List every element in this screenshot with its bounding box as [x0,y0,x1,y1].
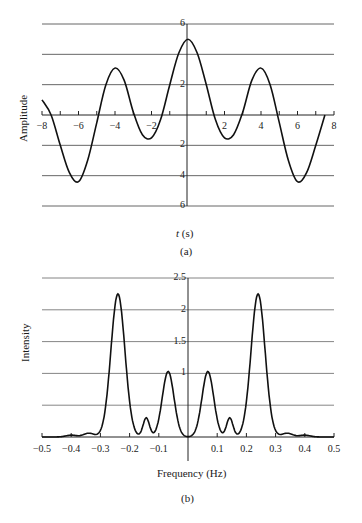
y-tick-a-2: 2 [180,138,185,149]
x-tick-b-2: −0.3 [91,443,109,454]
x-tick-b-0: −0.5 [33,443,51,454]
ylabel-amplitude: Amplitude [17,95,29,142]
x-tick-b-8: 0.4 [299,443,312,454]
x-tick-b-1: −0.4 [62,443,80,454]
y-tick-a-3: 4 [180,169,185,180]
y-tick-b-0: 2.5 [174,271,187,282]
x-tick-a-3: −2 [146,120,157,131]
y-tick-a-0: 6 [180,17,185,28]
y-axis-title-b: Intensity [19,324,31,363]
x-axis-title-b: Frequency (Hz) [157,467,226,479]
x-tick-b-4: −0.1 [150,443,168,454]
x-tick-b-6: 0.2 [240,443,253,454]
y-tick-a-1: 2 [180,78,185,89]
x-tick-b-7: 0.3 [269,443,282,454]
xlabel-unit: (s) [179,227,193,239]
x-tick-a-1: −6 [73,120,84,131]
chart-b [42,278,334,461]
caption-a: (a) [180,245,192,257]
ylabel-intensity: Intensity [19,324,31,363]
chart-a [42,24,334,206]
x-tick-a-7: 8 [332,120,337,131]
axes-a [42,24,334,206]
amplitude-curve [42,39,325,182]
x-tick-a-2: −4 [110,120,121,131]
x-tick-a-5: 4 [259,120,264,131]
x-tick-b-3: −0.2 [121,443,139,454]
x-tick-a-6: 6 [295,120,300,131]
x-axis-title-a: t (s) [176,227,193,239]
caption-b: (b) [181,492,194,504]
y-tick-b-3: 1 [181,366,186,377]
y-axis-title-a: Amplitude [17,95,29,142]
y-tick-a-4: 6 [180,199,185,210]
y-tick-b-1: 2 [181,303,186,314]
x-tick-b-5: 0.1 [211,443,224,454]
y-tick-b-2: 1.5 [174,335,187,346]
x-tick-a-4: 2 [222,120,227,131]
x-tick-a-0: −8 [37,120,48,131]
x-tick-b-9: 0.5 [328,443,341,454]
